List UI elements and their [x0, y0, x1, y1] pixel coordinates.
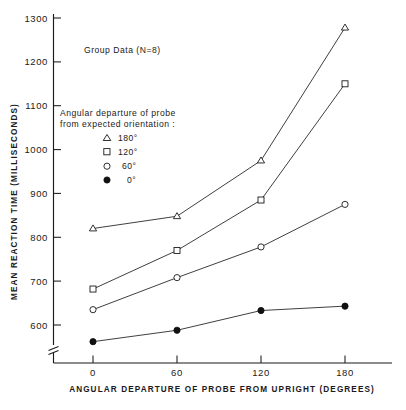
legend-title-line1: Angular departure of probe [60, 108, 176, 118]
x-tick-label-180: 180 [336, 367, 354, 378]
x-axis: 0 60 120 180 ANGULAR DEPARTURE OF PROBE … [54, 356, 393, 395]
data-point-open-square [258, 197, 264, 203]
data-point-open-square [90, 286, 96, 292]
y-tick-label-1300: 1300 [24, 13, 48, 24]
legend-item-60[interactable]: 60° [104, 161, 137, 171]
data-point-filled-circle [174, 327, 180, 333]
series-line [93, 306, 345, 342]
y-tick-label-1000: 1000 [24, 144, 48, 155]
data-point-open-square [174, 247, 180, 253]
data-point-filled-circle [342, 303, 348, 309]
group-data-annotation: Group Data (N=8) [84, 45, 161, 55]
legend-item-120[interactable]: 120° [104, 147, 138, 157]
y-axis: 1300 1200 1100 1000 900 800 700 600 MEAN… [10, 13, 61, 364]
y-tick-label-1100: 1100 [25, 100, 48, 111]
legend-label-60: 60° [122, 161, 137, 171]
data-point-open-triangle [341, 24, 348, 30]
data-point-open-circle [90, 307, 96, 313]
y-tick-label-800: 800 [30, 232, 48, 243]
data-point-filled-circle [90, 339, 96, 345]
data-point-open-circle [342, 201, 348, 207]
y-tick-marks [54, 18, 62, 325]
open-triangle-icon [103, 135, 111, 141]
open-circle-icon [104, 163, 110, 169]
legend-title-line2: from expected orientation : [60, 119, 175, 129]
data-point-open-triangle [173, 213, 180, 219]
y-tick-label-600: 600 [30, 320, 48, 331]
series-0 [90, 303, 348, 345]
open-square-icon [104, 149, 110, 155]
legend-label-180: 180° [118, 133, 138, 143]
x-tick-label-60: 60 [171, 367, 183, 378]
x-axis-title: ANGULAR DEPARTURE OF PROBE FROM UPRIGHT … [69, 385, 375, 394]
x-tick-marks [93, 356, 345, 364]
legend-item-0[interactable]: 0° [104, 175, 136, 185]
y-tick-label-700: 700 [30, 276, 48, 287]
y-tick-label-1200: 1200 [24, 56, 48, 67]
data-point-open-triangle [257, 157, 264, 163]
line-chart-canvas: 1300 1200 1100 1000 900 800 700 600 MEAN… [0, 0, 406, 410]
data-point-open-circle [174, 275, 180, 281]
y-tick-label-900: 900 [30, 188, 48, 199]
legend-item-180[interactable]: 180° [103, 133, 138, 143]
x-tick-label-120: 120 [252, 367, 270, 378]
x-tick-label-0: 0 [90, 367, 96, 378]
data-point-open-circle [258, 244, 264, 250]
legend: Angular departure of probe from expected… [60, 108, 176, 185]
filled-circle-icon [104, 177, 110, 183]
series-line [93, 204, 345, 309]
series-60 [90, 201, 348, 312]
y-axis-title: MEAN REACTION TIME (MILLISECONDS) [10, 103, 19, 300]
data-point-open-square [342, 81, 348, 87]
legend-label-120: 120° [118, 147, 138, 157]
legend-label-0: 0° [127, 175, 136, 185]
chart-figure: 1300 1200 1100 1000 900 800 700 600 MEAN… [0, 0, 406, 410]
data-point-filled-circle [258, 307, 264, 313]
